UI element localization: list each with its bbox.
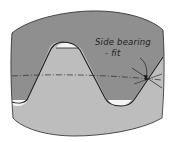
spline-fit-diagram: [0, 0, 174, 142]
annotation-line-1: Side bearing: [95, 37, 151, 47]
contact-point: [145, 78, 148, 81]
annotation-line-2: - fit: [105, 48, 120, 58]
